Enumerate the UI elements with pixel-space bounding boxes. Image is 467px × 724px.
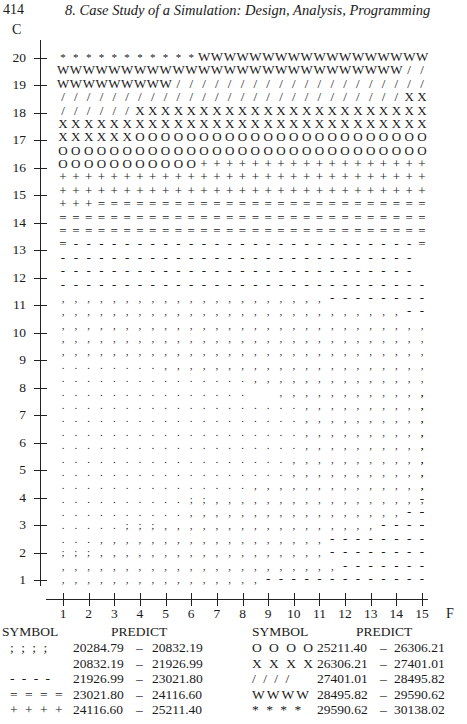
plot-symbol: . (70, 532, 82, 546)
plot-symbol: , (237, 344, 249, 358)
plot-symbol: , (198, 532, 210, 546)
legend-range-dash: – (136, 671, 143, 686)
plot-symbol: . (134, 358, 146, 372)
plot-symbol: . (95, 385, 107, 399)
plot-symbol: . (83, 492, 95, 506)
plot-symbol: , (301, 505, 313, 519)
plot-symbol: . (134, 465, 146, 479)
plot-symbol: , (288, 465, 300, 479)
plot-symbol: - (147, 278, 159, 292)
plot-symbol: , (352, 478, 364, 492)
legend-symbol: ; ; ; ; (10, 640, 49, 655)
legend-left: SYMBOL PREDICT ; ; ; ;20284.79–20832.192… (0, 624, 230, 724)
plot-symbol: . (70, 398, 82, 412)
plot-symbol: . (262, 452, 274, 466)
plot-symbol: , (416, 358, 428, 372)
plot-symbol: . (185, 398, 197, 412)
plot-symbol: , (172, 358, 184, 372)
plot-symbol: - (378, 572, 390, 586)
plot-symbol: . (198, 452, 210, 466)
plot-symbol: . (288, 398, 300, 412)
plot-symbol: , (301, 438, 313, 452)
plot-symbol: . (211, 478, 223, 492)
plot-symbol: . (70, 505, 82, 519)
plot-symbol: , (172, 304, 184, 318)
plot-symbol: , (224, 331, 236, 345)
plot-symbol: . (224, 411, 236, 425)
plot-symbol: , (301, 478, 313, 492)
plot-symbol: , (160, 291, 172, 305)
plot-symbol: . (160, 385, 172, 399)
plot-symbol: . (288, 438, 300, 452)
plot-symbol: . (95, 492, 107, 506)
plot-symbol: . (134, 492, 146, 506)
plot-symbol: . (172, 465, 184, 479)
legend-range-low: 20832.19 (73, 656, 124, 671)
plot-symbol: . (134, 411, 146, 425)
plot-symbol: . (249, 452, 261, 466)
plot-symbol: , (108, 318, 120, 332)
plot-symbol: . (70, 425, 82, 439)
plot-symbol: , (403, 398, 415, 412)
plot-symbol: , (390, 331, 402, 345)
plot-symbol: , (185, 318, 197, 332)
plot-symbol: , (198, 331, 210, 345)
plot-symbol: , (185, 358, 197, 372)
plot-symbol: , (57, 344, 69, 358)
plot-symbol: , (365, 425, 377, 439)
plot-symbol: - (352, 291, 364, 305)
plot-symbol: . (198, 465, 210, 479)
x-tick-label: 8 (231, 606, 255, 622)
plot-symbol: , (121, 331, 133, 345)
plot-symbol: , (83, 331, 95, 345)
plot-symbol: , (301, 518, 313, 532)
y-tick-label: 10 (0, 325, 26, 341)
plot-symbol: , (378, 371, 390, 385)
plot-symbol: , (275, 358, 287, 372)
plot-symbol: , (326, 478, 338, 492)
plot-symbol: . (160, 371, 172, 385)
plot-symbol: . (160, 478, 172, 492)
legend-range-high: 21926.99 (152, 656, 203, 671)
legend-symbol: + + + + (10, 702, 65, 717)
plot-symbol: , (288, 344, 300, 358)
plot-symbol: , (313, 291, 325, 305)
plot-symbol: , (108, 304, 120, 318)
plot-symbol: - (378, 291, 390, 305)
plot-symbol: , (237, 505, 249, 519)
plot-symbol: . (57, 398, 69, 412)
plot-symbol: , (390, 411, 402, 425)
plot-symbol: , (352, 304, 364, 318)
plot-symbol: . (237, 425, 249, 439)
legend-range-high: 29590.62 (394, 687, 445, 702)
plot-symbol: , (237, 518, 249, 532)
plot-symbol: , (108, 572, 120, 586)
plot-symbol: , (301, 492, 313, 506)
plot-symbol: , (352, 411, 364, 425)
y-tick-label: 6 (0, 435, 26, 451)
plot-symbol: . (57, 532, 69, 546)
plot-symbol: . (262, 398, 274, 412)
plot-symbol: . (108, 411, 120, 425)
plot-symbol: . (95, 505, 107, 519)
plot-symbol: . (121, 425, 133, 439)
plot-symbol: , (185, 505, 197, 519)
legend-header-predict: PREDICT (111, 624, 167, 639)
plot-symbol: . (147, 385, 159, 399)
plot-symbol: , (403, 344, 415, 358)
plot-symbol: , (313, 385, 325, 399)
legend-range-dash: – (380, 640, 387, 655)
legend-header-symbol: SYMBOL (252, 624, 308, 639)
plot-symbol: , (249, 478, 261, 492)
plot-symbol: , (237, 318, 249, 332)
plot-symbol: . (95, 398, 107, 412)
plot-symbol: , (160, 318, 172, 332)
plot-symbol: , (416, 465, 428, 479)
plot-symbol: , (326, 331, 338, 345)
plot-symbol: - (416, 304, 428, 318)
plot-symbol: , (301, 532, 313, 546)
plot-symbol: , (160, 559, 172, 573)
y-tick-label: 20 (0, 50, 26, 66)
y-tick (34, 553, 47, 554)
plot-symbol: , (301, 465, 313, 479)
